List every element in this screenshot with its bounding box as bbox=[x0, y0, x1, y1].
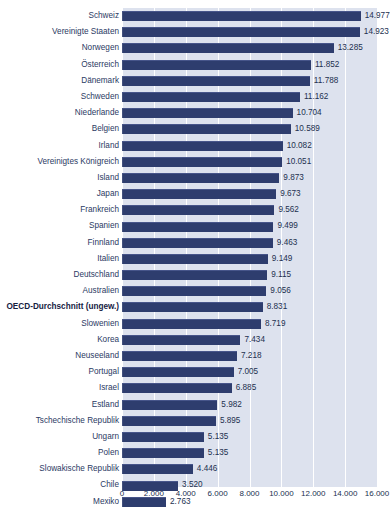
bar-track: 11.162 bbox=[122, 89, 377, 105]
x-axis-tick-label: 6.000 bbox=[208, 489, 228, 498]
x-axis-tick-label: 14.000 bbox=[333, 489, 357, 498]
bar bbox=[122, 367, 234, 377]
bar-track: 5.135 bbox=[122, 445, 377, 461]
bar bbox=[122, 351, 237, 361]
category-label: Frankreich bbox=[80, 202, 119, 218]
category-label: Ungarn bbox=[92, 429, 119, 445]
bar bbox=[122, 302, 263, 312]
bar-value-label: 10.082 bbox=[283, 138, 312, 154]
bar-value-label: 11.852 bbox=[311, 57, 339, 73]
bar-value-label: 8.831 bbox=[263, 299, 288, 315]
bar-row: Niederlande10.704 bbox=[0, 105, 383, 121]
bar-value-label: 9.873 bbox=[279, 170, 304, 186]
category-label: Island bbox=[97, 170, 119, 186]
bar bbox=[122, 335, 240, 345]
category-label: Neuseeland bbox=[75, 348, 119, 364]
bar-value-label: 13.285 bbox=[334, 40, 363, 56]
bar-value-label: 9.056 bbox=[266, 283, 291, 299]
category-label: Korea bbox=[97, 332, 119, 348]
bar bbox=[122, 11, 361, 21]
x-axis-tick-label: 2.000 bbox=[144, 489, 164, 498]
bar-track: 9.673 bbox=[122, 186, 377, 202]
bar bbox=[122, 205, 274, 215]
bar-value-label: 11.162 bbox=[300, 89, 328, 105]
bar-track: 10.051 bbox=[122, 154, 377, 170]
bar bbox=[122, 464, 193, 474]
bar-track: 7.434 bbox=[122, 332, 377, 348]
bar-track: 14.977 bbox=[122, 8, 377, 24]
bar-row: OECD-Durchschnitt (ungew.)8.831 bbox=[0, 299, 383, 315]
bar-row: Vereinigte Staaten14.923 bbox=[0, 24, 383, 40]
category-label: Estland bbox=[92, 397, 119, 413]
bar-row: Japan9.673 bbox=[0, 186, 383, 202]
category-label: Polen bbox=[98, 445, 119, 461]
category-label: Finnland bbox=[88, 235, 119, 251]
bar-track: 4.446 bbox=[122, 461, 377, 477]
category-label: Norwegen bbox=[82, 40, 119, 56]
bar-track: 13.285 bbox=[122, 40, 377, 56]
bar-track: 8.831 bbox=[122, 299, 377, 315]
bar-value-label: 7.434 bbox=[240, 332, 265, 348]
x-axis-tick-label: 0 bbox=[120, 489, 124, 498]
x-axis-tick-label: 16.000 bbox=[365, 489, 389, 498]
bar-value-label: 10.704 bbox=[293, 105, 322, 121]
bar-value-label: 9.499 bbox=[273, 218, 298, 234]
bar-track: 7.218 bbox=[122, 348, 377, 364]
bar-value-label: 14.977 bbox=[361, 8, 390, 24]
category-label: Chile bbox=[100, 477, 119, 493]
bar-row: Estland5.982 bbox=[0, 397, 383, 413]
bar bbox=[122, 76, 310, 86]
bar-track: 14.923 bbox=[122, 24, 377, 40]
bar-row: Vereinigtes Königreich10.051 bbox=[0, 154, 383, 170]
category-label: Deutschland bbox=[73, 267, 119, 283]
x-axis-tick-label: 10.000 bbox=[269, 489, 293, 498]
category-label: Schweden bbox=[81, 89, 119, 105]
bar-track: 10.704 bbox=[122, 105, 377, 121]
category-label: Slowakische Republik bbox=[39, 461, 119, 477]
bar bbox=[122, 254, 268, 264]
category-label: Australien bbox=[83, 283, 119, 299]
bar-track: 9.149 bbox=[122, 251, 377, 267]
bar-track: 9.873 bbox=[122, 170, 377, 186]
bar-value-label: 10.589 bbox=[291, 121, 320, 137]
x-axis-tick-label: 8.000 bbox=[239, 489, 259, 498]
bar-track: 9.562 bbox=[122, 202, 377, 218]
bar-value-label: 5.135 bbox=[204, 445, 229, 461]
category-label: Belgien bbox=[92, 121, 119, 137]
bar-track: 10.589 bbox=[122, 121, 377, 137]
bar bbox=[122, 173, 279, 183]
bar-row: Island9.873 bbox=[0, 170, 383, 186]
bar-row: Italien9.149 bbox=[0, 251, 383, 267]
x-axis-tick-label: 4.000 bbox=[176, 489, 196, 498]
bar-row: Irland10.082 bbox=[0, 138, 383, 154]
bar bbox=[122, 400, 217, 410]
bar-row: Polen5.135 bbox=[0, 445, 383, 461]
bar bbox=[122, 238, 273, 248]
category-label: Israel bbox=[99, 380, 119, 396]
bar-row: Norwegen13.285 bbox=[0, 40, 383, 56]
bar bbox=[122, 108, 293, 118]
category-label: Mexiko bbox=[93, 494, 119, 510]
bar-track: 11.788 bbox=[122, 73, 377, 89]
bar-value-label: 8.719 bbox=[261, 316, 286, 332]
bar-value-label: 9.115 bbox=[267, 267, 291, 283]
bar-value-label: 9.149 bbox=[268, 251, 293, 267]
bar-track: 11.852 bbox=[122, 57, 377, 73]
bar-value-label: 7.218 bbox=[237, 348, 262, 364]
bar-track: 6.885 bbox=[122, 380, 377, 396]
bar-value-label: 11.788 bbox=[310, 73, 338, 89]
bar-track: 8.719 bbox=[122, 316, 377, 332]
bar-row: Schweden11.162 bbox=[0, 89, 383, 105]
bar-value-label: 6.885 bbox=[232, 380, 257, 396]
bar bbox=[122, 432, 204, 442]
bar-row: Korea7.434 bbox=[0, 332, 383, 348]
bar-row: Dänemark11.788 bbox=[0, 73, 383, 89]
bar bbox=[122, 157, 282, 167]
bar bbox=[122, 27, 360, 37]
x-axis-tick-label: 12.000 bbox=[301, 489, 325, 498]
category-label: Dänemark bbox=[81, 73, 119, 89]
category-label: Tschechische Republik bbox=[36, 413, 119, 429]
category-label: Slowenien bbox=[81, 316, 119, 332]
bar-row: Finnland9.463 bbox=[0, 235, 383, 251]
